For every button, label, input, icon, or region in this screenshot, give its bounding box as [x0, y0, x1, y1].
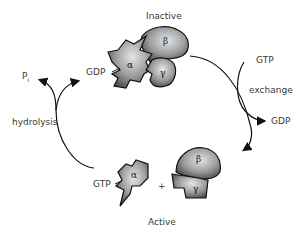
- gtp-label-bottom: GTP: [93, 180, 111, 189]
- inactive-heterotrimer: α β γ: [108, 27, 188, 88]
- inactive-title: Inactive: [146, 12, 182, 21]
- exchange-label: exchange: [249, 86, 293, 95]
- alpha-label-active: α: [131, 170, 137, 180]
- active-title: Active: [148, 218, 176, 227]
- alpha-subunit-active: [116, 160, 148, 206]
- active-beta-gamma: β γ: [172, 148, 220, 198]
- pi-label: Pi: [22, 72, 29, 83]
- gamma-label-active: γ: [193, 184, 198, 194]
- gamma-label-inactive: γ: [160, 68, 165, 78]
- hydrolysis-label: hydrolysis: [12, 118, 57, 127]
- gdp-label-top: GDP: [86, 68, 105, 77]
- g-protein-cycle-diagram: α β γ α β γ: [0, 0, 306, 231]
- beta-label-inactive: β: [163, 36, 168, 46]
- gdp-label-right: GDP: [271, 117, 290, 126]
- exchange-arrows: [190, 56, 264, 150]
- gtp-label-right: GTP: [256, 56, 274, 65]
- beta-label-active: β: [196, 154, 201, 164]
- alpha-label-inactive: α: [127, 60, 133, 70]
- plus-sign: +: [158, 182, 166, 191]
- active-alpha-gtp: α: [115, 160, 148, 206]
